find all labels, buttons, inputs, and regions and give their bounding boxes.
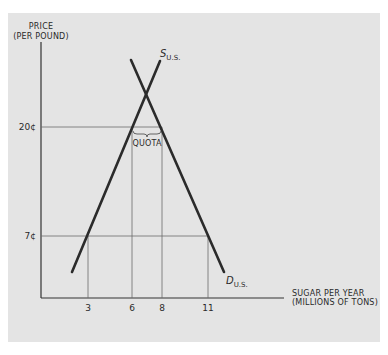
y-tick-20: 20¢ (19, 122, 36, 132)
x-tick-3: 3 (85, 303, 91, 313)
supply-demand-chart: PRICE (PER POUND) 20¢ 7¢ 3 6 8 11 SUGAR … (0, 0, 388, 355)
x-axis-label-line2: (MILLIONS OF TONS) (292, 298, 378, 307)
x-tick-11: 11 (202, 303, 213, 313)
supply-label: SU.S. (160, 48, 180, 62)
y-tick-7: 7¢ (25, 231, 36, 241)
y-axis-label-line1: PRICE (29, 22, 53, 31)
x-tick-6: 6 (129, 303, 135, 313)
x-tick-8: 8 (159, 303, 165, 313)
demand-curve (131, 60, 224, 272)
supply-curve (72, 61, 160, 272)
quota-brace (133, 131, 161, 137)
demand-label: DU.S. (226, 275, 248, 289)
quota-label: QUOTA (132, 139, 162, 148)
x-axis-label-line1: SUGAR PER YEAR (292, 289, 365, 298)
y-axis-label-line2: (PER POUND) (13, 32, 69, 41)
